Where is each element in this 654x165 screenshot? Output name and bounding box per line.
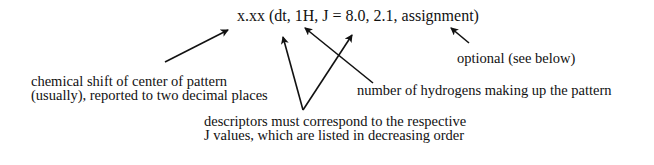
optional-arrow: [451, 28, 469, 43]
descriptor-dt-arrow: [283, 37, 303, 110]
arrows-layer: [0, 0, 654, 165]
hydrogens-arrow: [305, 28, 373, 83]
chemical-shift-arrow: [165, 30, 228, 62]
